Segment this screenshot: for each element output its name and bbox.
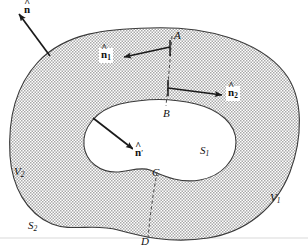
hat-accent-n1: ^ bbox=[101, 43, 107, 53]
label-n-hat-1: ^n1 bbox=[99, 48, 113, 63]
label-point-d: D bbox=[141, 236, 149, 247]
label-n-hat-2: ^n2 bbox=[226, 86, 240, 101]
shaded-volume-region bbox=[10, 28, 300, 240]
normal-vector-arrow-n-prime bbox=[93, 118, 133, 149]
label-n-hat: ^n bbox=[24, 4, 30, 15]
label-point-a: A bbox=[174, 30, 181, 41]
label-n1-subscript: 1 bbox=[107, 54, 111, 62]
vector-field-figure: ^n ^n1 ^n2 ^n′ A B C D S1 S2 V1 V2 bbox=[0, 0, 308, 249]
inner-surface-boundary bbox=[84, 100, 236, 181]
hat-accent-n-prime: ^ bbox=[135, 141, 141, 151]
label-volume-v2: V2 bbox=[14, 166, 24, 178]
hat-accent-n: ^ bbox=[24, 0, 30, 8]
label-v2-text: V bbox=[14, 165, 21, 177]
label-n2-subscript: 2 bbox=[234, 92, 238, 100]
label-v1-text: V bbox=[270, 191, 277, 203]
label-s1-subscript: 1 bbox=[206, 149, 210, 158]
label-point-c: C bbox=[152, 167, 159, 178]
label-point-b: B bbox=[163, 108, 170, 119]
label-v2-subscript: 2 bbox=[21, 170, 25, 179]
figure-svg bbox=[0, 0, 308, 249]
normal-vector-arrow-outer bbox=[19, 14, 50, 56]
label-s2-subscript: 2 bbox=[34, 224, 38, 233]
hat-accent-n2: ^ bbox=[228, 81, 234, 91]
label-surface-s1: S1 bbox=[200, 145, 209, 157]
label-volume-v1: V1 bbox=[270, 192, 280, 204]
label-n-prime-mark: ′ bbox=[141, 148, 143, 158]
label-n-hat-prime: ^n′ bbox=[133, 146, 145, 159]
label-v1-subscript: 1 bbox=[277, 196, 281, 205]
label-surface-s2: S2 bbox=[28, 220, 37, 232]
